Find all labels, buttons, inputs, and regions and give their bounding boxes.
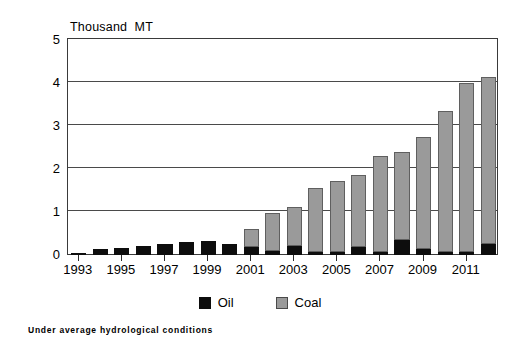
bar-segment-coal [416,137,431,249]
bar-segment-oil [351,247,366,255]
bar-group [438,111,453,255]
bar-group [459,83,474,255]
legend-item-oil: Oil [199,296,234,309]
x-tick-label: 2007 [365,262,394,277]
bar-segment-oil [136,246,151,255]
legend-swatch-oil [199,297,211,309]
bar-group [201,241,216,255]
bar-segment-oil [394,240,409,255]
x-tick-label: 2003 [279,262,308,277]
y-axis-tick-labels: 012345 [28,38,60,255]
bar-segment-oil [481,244,496,255]
y-tick-label: 2 [34,161,60,176]
y-tick-label: 3 [34,118,60,133]
bar-segment-coal [265,213,280,250]
bar-group [157,244,172,255]
x-tick-mark [423,255,424,261]
bar-group [179,242,194,255]
bar-segment-oil [201,241,216,255]
bar-segment-coal [459,83,474,252]
bar-group [136,246,151,255]
bar-segment-oil [244,247,259,255]
x-axis-tick-marks [67,255,498,262]
bar-segment-oil [157,244,172,255]
y-tick-label: 5 [34,32,60,47]
bar-segment-oil [114,248,129,255]
chart-legend: Oil Coal [0,296,520,309]
bar-group [114,248,129,255]
bar-group [351,175,366,255]
x-tick-label: 1999 [193,262,222,277]
bar-group [330,181,345,255]
legend-label-coal: Coal [295,296,322,309]
bar-group [287,207,302,255]
bar-group [244,229,259,255]
legend-item-coal: Coal [276,296,322,309]
y-axis-unit-label: Thousand MT [70,20,153,34]
x-tick-label: 2001 [236,262,265,277]
bar-group [416,137,431,255]
chart-footnote: Under average hydrological conditions [28,325,213,335]
bar-group [265,213,280,255]
bar-group [308,188,323,255]
bar-segment-coal [394,152,409,240]
x-tick-label: 2011 [452,262,480,277]
x-tick-mark [293,255,294,261]
bar-segment-coal [373,156,388,251]
bar-series-container [68,39,497,255]
bar-segment-oil [287,246,302,255]
x-tick-mark [379,255,380,261]
bar-segment-coal [308,188,323,252]
bar-segment-oil [222,244,237,255]
y-tick-label: 4 [34,75,60,90]
bar-group [222,244,237,255]
stacked-bar-chart: Thousand MT 012345 199319951997199920012… [0,0,520,343]
bar-segment-coal [351,175,366,247]
x-tick-label: 1997 [150,262,179,277]
x-tick-label: 1995 [106,262,135,277]
x-tick-label: 1993 [63,262,92,277]
x-tick-mark [336,255,337,261]
bar-segment-coal [481,77,496,244]
bar-group [481,77,496,255]
x-tick-mark [164,255,165,261]
x-tick-mark [121,255,122,261]
bar-segment-coal [287,207,302,247]
bar-group [394,152,409,255]
x-axis-tick-labels: 1993199519971999200120032005200720092011 [67,262,498,282]
bar-segment-coal [438,111,453,252]
x-tick-label: 2009 [408,262,437,277]
x-tick-mark [466,255,467,261]
y-tick-label: 0 [34,247,60,262]
bar-group [373,156,388,255]
bar-segment-oil [179,242,194,255]
bar-segment-coal [244,229,259,247]
x-tick-mark [207,255,208,261]
legend-swatch-coal [276,297,288,309]
y-tick-label: 1 [34,204,60,219]
bar-segment-coal [330,181,345,251]
x-tick-mark [78,255,79,261]
x-tick-mark [250,255,251,261]
x-tick-label: 2005 [322,262,351,277]
legend-label-oil: Oil [218,296,234,309]
